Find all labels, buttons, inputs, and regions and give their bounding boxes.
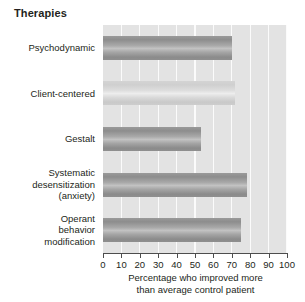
x-axis-tick [269, 253, 270, 258]
category-label-line: (anxiety) [0, 190, 95, 202]
bar-row [103, 71, 287, 117]
x-axis-tick [140, 253, 141, 258]
x-axis-tick-label: 10 [116, 259, 127, 270]
x-axis-tick-label: 30 [153, 259, 164, 270]
bar [103, 127, 201, 151]
x-axis-title-line-1: Percentage who improved more [103, 272, 288, 284]
bar-row [103, 116, 287, 162]
category-label-line: Psychodynamic [0, 42, 95, 54]
x-axis-tick-label: 90 [263, 259, 274, 270]
x-axis-tick-label: 80 [245, 259, 256, 270]
x-axis-tick-label: 40 [171, 259, 182, 270]
bar-row [103, 207, 287, 253]
category-label-line: Client-centered [0, 88, 95, 100]
bar-row [103, 25, 287, 71]
x-axis-tick [121, 253, 122, 258]
bar [103, 81, 235, 105]
category-label: Operantbehaviormodification [0, 213, 95, 248]
category-label: Systematicdesensitization(anxiety) [0, 167, 95, 202]
bar-chart: Therapies 0102030405060708090100 Psychod… [0, 0, 305, 302]
x-axis-title-line-2: than average control patient [103, 284, 288, 296]
category-label: Client-centered [0, 88, 95, 100]
bars-layer [103, 25, 287, 253]
x-axis-tick [287, 253, 288, 258]
x-axis-tick-label: 50 [190, 259, 201, 270]
category-label-line: modification [0, 236, 95, 248]
category-label: Gestalt [0, 133, 95, 145]
plot-area [103, 25, 287, 253]
x-axis-tick-label: 20 [135, 259, 146, 270]
category-label-line: desensitization [0, 179, 95, 191]
category-label-line: Operant [0, 213, 95, 225]
bar-row [103, 162, 287, 208]
x-axis-tick [158, 253, 159, 258]
x-axis-tick [213, 253, 214, 258]
x-axis-tick [103, 253, 104, 258]
x-axis-tick-label: 0 [100, 259, 105, 270]
category-label-line: Gestalt [0, 133, 95, 145]
x-axis-tick-label: 70 [227, 259, 238, 270]
category-label: Psychodynamic [0, 42, 95, 54]
bar [103, 36, 232, 60]
category-label-line: Systematic [0, 167, 95, 179]
x-axis-tick [232, 253, 233, 258]
category-label-line: behavior [0, 224, 95, 236]
bar [103, 173, 247, 197]
x-axis-tick-label: 60 [208, 259, 219, 270]
x-axis-tick [250, 253, 251, 258]
x-axis-tick [177, 253, 178, 258]
bar [103, 218, 241, 242]
x-axis-tick-label: 100 [279, 259, 295, 270]
x-axis-title: Percentage who improved more than averag… [103, 272, 288, 295]
chart-title: Therapies [14, 7, 67, 19]
x-axis-tick [195, 253, 196, 258]
